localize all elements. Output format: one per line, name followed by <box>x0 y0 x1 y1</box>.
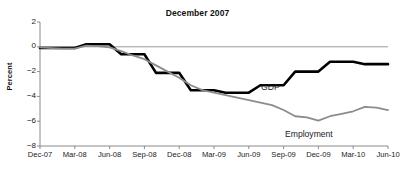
series-line-gdp <box>40 44 388 92</box>
series-label-employment: Employment <box>285 129 333 139</box>
series-line-employment <box>40 46 388 121</box>
series-label-gdp: GDP <box>261 82 280 92</box>
